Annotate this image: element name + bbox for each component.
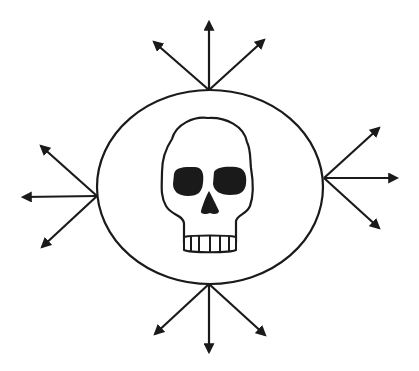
arrow-top-1 xyxy=(154,42,209,90)
right-eye-socket xyxy=(213,167,246,195)
arrow-right-2 xyxy=(324,178,379,228)
arrow-right-1 xyxy=(324,128,379,178)
arrow-top-2 xyxy=(209,40,264,90)
arrow-bottom-2 xyxy=(209,284,265,335)
arrow-bottom-1 xyxy=(155,284,209,334)
arrow-left-1 xyxy=(41,146,97,196)
skull-icon xyxy=(162,118,253,253)
left-eye-socket xyxy=(173,167,203,196)
teeth xyxy=(184,236,236,253)
arrow-left-0 xyxy=(23,196,97,197)
diagram-canvas xyxy=(0,0,419,371)
arrow-left-2 xyxy=(42,196,97,247)
